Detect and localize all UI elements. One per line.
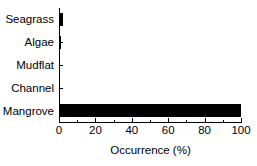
x-tick-label-20: 20 xyxy=(78,124,112,136)
x-tick-100 xyxy=(241,118,242,123)
y-tick-label-seagrass: Seagrass xyxy=(0,13,54,25)
x-minor-tick-50 xyxy=(150,120,151,123)
y-tick-label-mangrove: Mangrove xyxy=(0,105,54,117)
x-tick-60 xyxy=(168,118,169,123)
y-tick-label-channel: Channel xyxy=(0,82,54,94)
x-tick-0 xyxy=(59,118,60,123)
y-tick-channel xyxy=(59,88,63,89)
x-minor-tick-30 xyxy=(114,120,115,123)
x-minor-tick-10 xyxy=(77,120,78,123)
y-tick-mangrove xyxy=(59,111,63,112)
x-tick-80 xyxy=(205,118,206,123)
x-axis-title: Occurrence (%) xyxy=(59,144,242,156)
y-axis-tick-labels: SeagrassAlgaeMudflatChannelMangrove xyxy=(0,8,257,122)
y-tick-algae xyxy=(59,42,63,43)
y-tick-label-mudflat: Mudflat xyxy=(0,59,54,71)
x-tick-label-100: 100 xyxy=(224,124,257,136)
x-tick-label-60: 60 xyxy=(151,124,185,136)
bar-chart-figure: SeagrassAlgaeMudflatChannelMangrove 0204… xyxy=(0,0,257,166)
y-tick-label-algae: Algae xyxy=(0,36,54,48)
x-minor-tick-70 xyxy=(186,120,187,123)
x-tick-label-80: 80 xyxy=(188,124,222,136)
y-tick-mudflat xyxy=(59,65,63,66)
x-tick-20 xyxy=(95,118,96,123)
y-tick-seagrass xyxy=(59,19,63,20)
x-tick-label-0: 0 xyxy=(42,124,76,136)
x-tick-40 xyxy=(132,118,133,123)
x-tick-label-40: 40 xyxy=(115,124,149,136)
x-minor-tick-90 xyxy=(223,120,224,123)
